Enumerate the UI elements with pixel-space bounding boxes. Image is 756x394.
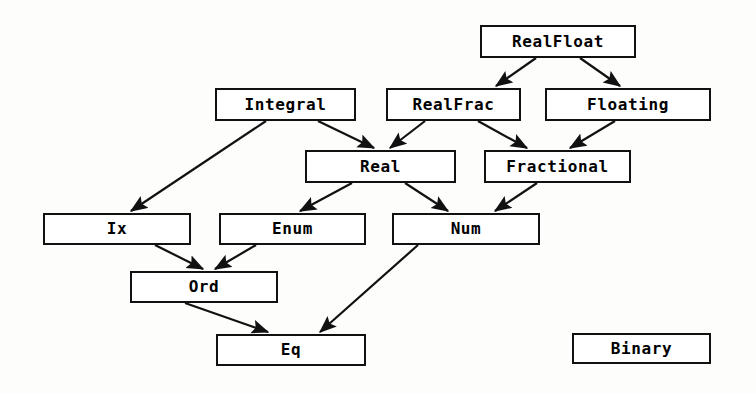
class-node-num[interactable]: Num: [392, 213, 540, 245]
edge-ix-to-ord: [155, 245, 203, 269]
class-node-eq[interactable]: Eq: [216, 334, 366, 366]
class-node-label: Floating: [587, 96, 669, 112]
edge-integral-to-real: [318, 121, 374, 148]
class-node-label: Ord: [189, 279, 220, 295]
class-node-fractional[interactable]: Fractional: [484, 150, 631, 183]
class-node-real[interactable]: Real: [305, 150, 456, 183]
class-node-integral[interactable]: Integral: [215, 88, 356, 121]
class-node-label: Enum: [272, 221, 313, 237]
class-node-ix[interactable]: Ix: [43, 213, 191, 245]
class-node-label: Integral: [245, 96, 327, 112]
edge-num-to-eq: [320, 245, 418, 332]
class-node-label: RealFrac: [413, 96, 495, 112]
class-node-realfloat[interactable]: RealFloat: [480, 25, 636, 58]
diagram-canvas: RealFloatIntegralRealFracFloatingRealFra…: [0, 0, 756, 394]
class-node-label: Num: [451, 221, 482, 237]
class-node-label: Binary: [611, 340, 672, 356]
class-node-label: Ix: [107, 221, 127, 237]
class-node-floating[interactable]: Floating: [545, 88, 711, 121]
class-node-label: RealFloat: [512, 33, 604, 49]
edge-floating-to-fractional: [570, 121, 615, 148]
class-node-ord[interactable]: Ord: [130, 271, 278, 303]
class-node-label: Eq: [281, 342, 301, 358]
edge-realfloat-to-floating: [580, 58, 620, 86]
edge-real-to-num: [405, 183, 448, 211]
class-node-realfrac[interactable]: RealFrac: [386, 88, 521, 121]
edge-real-to-enum: [300, 183, 352, 211]
class-node-binary[interactable]: Binary: [572, 333, 711, 364]
edge-realfloat-to-realfrac: [496, 58, 536, 86]
class-node-label: Real: [360, 158, 401, 174]
class-node-label: Fractional: [506, 158, 608, 174]
class-node-enum[interactable]: Enum: [219, 213, 366, 245]
edge-enum-to-ord: [215, 245, 256, 269]
edge-integral-to-ix: [131, 121, 266, 211]
edge-fractional-to-num: [495, 183, 537, 211]
edge-realfrac-to-real: [390, 121, 425, 148]
edge-ord-to-eq: [185, 303, 268, 332]
edge-realfrac-to-fractional: [478, 121, 527, 148]
